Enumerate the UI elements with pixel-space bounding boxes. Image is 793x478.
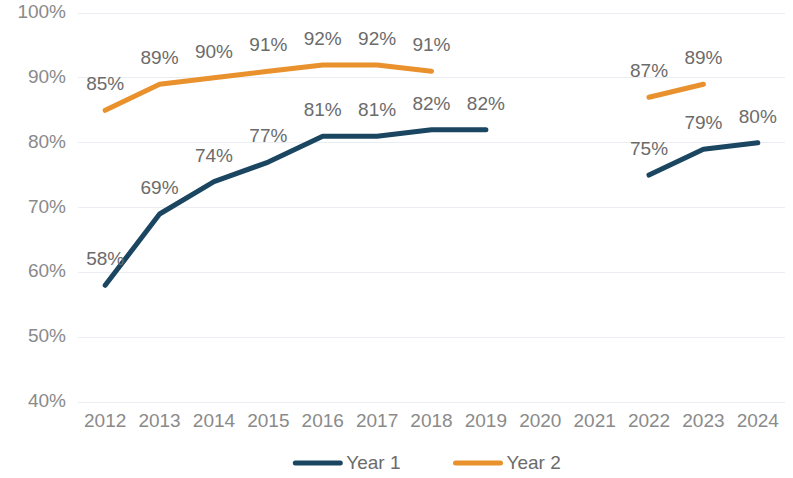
y-axis-tick-label: 70%	[28, 196, 66, 217]
data-point-label: 91%	[249, 34, 287, 55]
data-point-label: 69%	[141, 177, 179, 198]
data-point-label: 82%	[467, 93, 505, 114]
x-axis-tick-label: 2022	[628, 410, 670, 431]
chart-legend: Year 1Year 2	[295, 452, 560, 473]
x-axis-tick-label: 2021	[574, 410, 616, 431]
x-axis-tick-label: 2019	[465, 410, 507, 431]
data-point-label: 81%	[304, 99, 342, 120]
data-point-label: 92%	[358, 28, 396, 49]
chart-container: 100%90%80%70%60%50%40% 20122013201420152…	[0, 0, 793, 478]
data-point-label: 74%	[195, 145, 233, 166]
data-point-label: 89%	[684, 47, 722, 68]
line-chart: 100%90%80%70%60%50%40% 20122013201420152…	[0, 0, 793, 478]
data-point-label: 82%	[412, 93, 450, 114]
y-axis-tick-label: 40%	[28, 390, 66, 411]
data-point-label: 58%	[86, 248, 124, 269]
x-axis-tick-label: 2012	[84, 410, 126, 431]
x-axis-tick-label: 2020	[519, 410, 561, 431]
y-axis-tick-labels: 100%90%80%70%60%50%40%	[17, 1, 66, 411]
x-axis-tick-label: 2024	[737, 410, 780, 431]
x-axis-tick-labels: 2012201320142015201620172018201920202021…	[84, 410, 779, 431]
y-axis-tick-label: 90%	[28, 66, 66, 87]
data-point-label: 75%	[630, 138, 668, 159]
x-axis-tick-label: 2016	[302, 410, 344, 431]
data-point-label: 77%	[249, 125, 287, 146]
data-point-label: 91%	[412, 34, 450, 55]
legend-label-2[interactable]: Year 2	[507, 452, 561, 473]
x-axis-tick-label: 2014	[193, 410, 236, 431]
y-axis-tick-label: 100%	[17, 1, 66, 22]
x-axis-tick-label: 2018	[410, 410, 452, 431]
data-point-label: 89%	[141, 47, 179, 68]
y-axis-tick-label: 60%	[28, 260, 66, 281]
data-point-label: 87%	[630, 60, 668, 81]
data-point-labels: 58%69%74%77%81%81%82%82%75%79%80%85%89%9…	[86, 28, 777, 269]
data-point-label: 85%	[86, 73, 124, 94]
data-point-label: 90%	[195, 41, 233, 62]
x-axis-tick-label: 2013	[138, 410, 180, 431]
x-axis-tick-label: 2017	[356, 410, 398, 431]
series-line-2	[649, 84, 703, 97]
data-point-label: 81%	[358, 99, 396, 120]
data-point-label: 92%	[304, 28, 342, 49]
x-axis-tick-label: 2015	[247, 410, 289, 431]
data-point-label: 79%	[684, 112, 722, 133]
legend-label-1[interactable]: Year 1	[346, 452, 400, 473]
x-axis-tick-label: 2023	[682, 410, 724, 431]
data-point-label: 80%	[739, 106, 777, 127]
y-axis-tick-label: 50%	[28, 325, 66, 346]
y-axis-tick-label: 80%	[28, 131, 66, 152]
